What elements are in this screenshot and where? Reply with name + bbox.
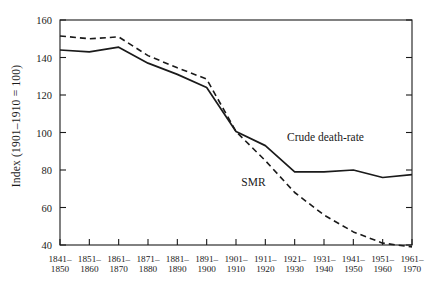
y-tick-label: 100 xyxy=(36,127,52,138)
x-tick-label: 1851–1860 xyxy=(78,254,101,275)
x-axis-ticks xyxy=(60,239,412,245)
chart-figure: 406080100120140160 Index (1901–1910 = 10… xyxy=(0,0,436,294)
x-tick-label: 1961–1970 xyxy=(401,254,424,275)
chart-plot-area xyxy=(0,0,436,294)
series-label-crude-death-rate: Crude death-rate xyxy=(287,131,364,143)
y-tick-label: 140 xyxy=(36,52,52,63)
x-tick-label: 1901–1910 xyxy=(225,254,248,275)
y-tick-label: 120 xyxy=(36,90,52,101)
y-tick-label: 60 xyxy=(42,202,53,213)
series-label-smr: SMR xyxy=(241,176,265,188)
x-tick-label: 1871–1880 xyxy=(137,254,160,275)
y-tick-label: 40 xyxy=(42,240,53,251)
x-tick-label: 1941–1950 xyxy=(342,254,365,275)
x-tick-label: 1891–1900 xyxy=(195,254,218,275)
x-tick-label: 1881–1890 xyxy=(166,254,189,275)
x-tick-label: 1861–1870 xyxy=(107,254,130,275)
series-line-crude-death-rate xyxy=(60,47,412,177)
y-axis-title: Index (1901–1910 = 100) xyxy=(10,26,22,226)
x-tick-label: 1911–1920 xyxy=(254,254,277,275)
x-tick-label: 1921–1930 xyxy=(283,254,306,275)
x-tick-label: 1951–1960 xyxy=(371,254,394,275)
y-tick-label: 80 xyxy=(42,165,53,176)
x-tick-label: 1931–1940 xyxy=(313,254,336,275)
x-tick-label: 1841–1850 xyxy=(49,254,72,275)
y-axis-tick-labels: 406080100120140160 xyxy=(0,0,52,294)
y-tick-label: 160 xyxy=(36,15,52,26)
